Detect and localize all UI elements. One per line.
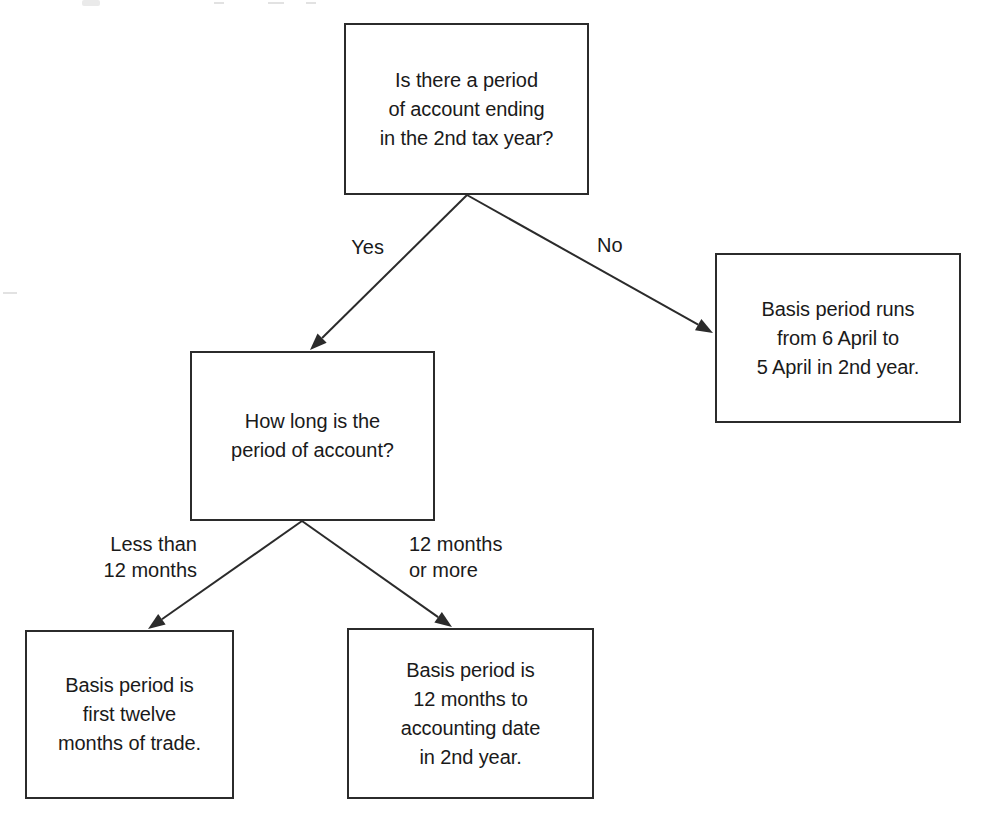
connector-line-edge-no — [467, 195, 698, 325]
flowchart-node-out-6-april: Basis period runs from 6 April to 5 Apri… — [715, 253, 961, 423]
edge-label-edge-no: No — [597, 232, 645, 258]
flowchart-node-out-first-twelve: Basis period is first twelve months of t… — [25, 630, 234, 799]
edge-label-edge-12-or-more: 12 months or more — [409, 531, 534, 583]
node-label: Basis period is first twelve months of t… — [52, 671, 207, 758]
edge-label-edge-yes: Yes — [332, 234, 384, 260]
flowchart-node-q-period-of-account: Is there a period of account ending in t… — [344, 23, 589, 195]
node-label: Basis period runs from 6 April to 5 Apri… — [751, 295, 926, 382]
arrowhead-edge-12-or-more — [434, 612, 452, 627]
connector-line-edge-yes — [322, 195, 467, 338]
flowchart-canvas: Is there a period of account ending in t… — [0, 0, 981, 824]
flowchart-node-q-how-long: How long is the period of account? — [190, 351, 435, 521]
arrowhead-edge-no — [695, 319, 713, 333]
node-label: Is there a period of account ending in t… — [374, 66, 560, 153]
edge-label-edge-less-than-12: Less than 12 months — [72, 531, 197, 583]
node-label: How long is the period of account? — [225, 407, 400, 465]
arrowhead-edge-less-than-12 — [148, 614, 166, 629]
node-label: Basis period is 12 months to accounting … — [395, 656, 547, 772]
flowchart-node-out-12-months-to-date: Basis period is 12 months to accounting … — [347, 628, 594, 799]
